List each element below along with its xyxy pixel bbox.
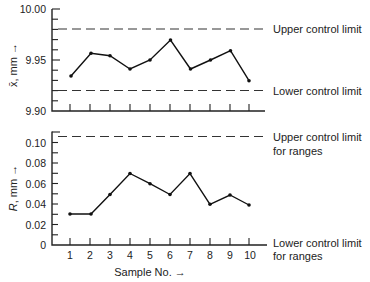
- svg-text:7: 7: [187, 249, 193, 261]
- svg-text:10: 10: [244, 249, 256, 261]
- control-charts: 10.00 9.95 9.90 x̄, mm → Upper control l…: [0, 0, 370, 282]
- r-axis-title: R, mm →: [7, 165, 19, 211]
- xbar-tick-label-9-90: 9.90: [26, 105, 47, 117]
- range-chart: 0.10 0.08 0.06 0.04 0.02 0 1 2 3 4 5 6 7…: [7, 131, 362, 278]
- svg-text:8: 8: [207, 249, 213, 261]
- svg-text:5: 5: [147, 249, 153, 261]
- xbar-chart: 10.00 9.95 9.90 x̄, mm → Upper control l…: [7, 3, 362, 117]
- r-series-line: [70, 174, 249, 215]
- svg-text:1: 1: [67, 249, 73, 261]
- r-tick-label-0: 0: [40, 239, 46, 251]
- svg-text:9: 9: [227, 249, 233, 261]
- r-lower-control-limit-label: Lower control limit: [273, 237, 362, 249]
- xbar-x-ticks: [70, 104, 249, 111]
- r-upper-control-limit-label: Upper control limit: [273, 131, 362, 143]
- xbar-y-ticks: [52, 9, 60, 101]
- xbar-series-line: [71, 40, 249, 81]
- svg-text:6: 6: [167, 249, 173, 261]
- r-tick-label-0-08: 0.08: [26, 157, 47, 169]
- xbar-axis-title: x̄, mm →: [7, 43, 19, 87]
- svg-text:2: 2: [87, 249, 93, 261]
- x-axis-title: Sample No. →: [114, 266, 186, 278]
- xbar-y-axis: [52, 9, 265, 111]
- svg-text:4: 4: [127, 249, 133, 261]
- r-x-ticks: [70, 238, 249, 245]
- r-tick-label-0-04: 0.04: [26, 198, 47, 210]
- xbar-tick-label-10-00: 10.00: [20, 3, 46, 15]
- svg-text:3: 3: [107, 249, 113, 261]
- r-tick-label-0-02: 0.02: [26, 219, 47, 231]
- r-tick-label-0-10: 0.10: [26, 137, 47, 149]
- xbar-upper-control-limit-label: Upper control limit: [273, 23, 362, 35]
- xbar-tick-label-9-95: 9.95: [26, 54, 47, 66]
- xbar-data-points: [69, 38, 251, 82]
- r-tick-label-0-06: 0.06: [26, 178, 47, 190]
- sample-tick-labels: 1 2 3 4 5 6 7 8 9 10: [67, 249, 256, 261]
- xbar-lower-control-limit-label: Lower control limit: [273, 85, 362, 97]
- r-upper-control-limit-label-2: for ranges: [273, 145, 323, 157]
- r-y-ticks: [52, 132, 60, 235]
- r-lower-control-limit-label-2: for ranges: [273, 250, 323, 262]
